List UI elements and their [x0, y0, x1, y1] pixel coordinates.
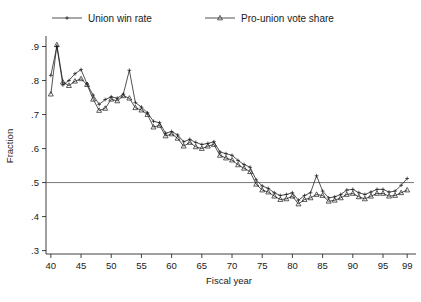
y-tick-label: .5: [31, 177, 39, 188]
chart-container: .3.4.5.6.7.8.940455055606570758085909599…: [0, 0, 421, 302]
x-tick-label: 85: [317, 260, 328, 271]
data-point-marker: [127, 68, 131, 72]
x-tick-label: 80: [287, 260, 298, 271]
y-axis-title: Fraction: [4, 129, 15, 163]
y-tick-label: .8: [31, 75, 39, 86]
x-tick-label: 70: [227, 260, 238, 271]
y-tick-label: .3: [31, 245, 39, 256]
legend-marker-plus: [65, 16, 69, 20]
data-point-marker: [315, 174, 319, 178]
x-tick-label: 65: [197, 260, 208, 271]
series-line: [51, 45, 407, 204]
x-tick-label: 60: [166, 260, 177, 271]
legend-item-1: [52, 16, 82, 20]
x-tick-label: 95: [378, 260, 389, 271]
series-line: [51, 47, 407, 201]
y-tick-label: .7: [31, 109, 39, 120]
x-tick-label: 45: [76, 260, 87, 271]
x-tick-label: 75: [257, 260, 268, 271]
x-tick-label: 40: [46, 260, 57, 271]
legend-label: Union win rate: [88, 13, 152, 24]
x-tick-label: 55: [136, 260, 147, 271]
data-point-marker: [49, 74, 53, 78]
series-2: [48, 42, 409, 206]
y-tick-label: .4: [31, 211, 39, 222]
data-point-marker: [309, 191, 313, 195]
x-tick-label: 99: [402, 260, 413, 271]
y-tick-label: .9: [31, 41, 39, 52]
line-chart: .3.4.5.6.7.8.940455055606570758085909599…: [0, 0, 421, 302]
data-point-marker: [405, 187, 410, 191]
x-tick-label: 90: [348, 260, 359, 271]
legend-item-2: [205, 15, 235, 19]
series-1: [49, 45, 409, 203]
legend-label: Pro-union vote share: [241, 13, 334, 24]
x-axis-title: Fiscal year: [206, 275, 252, 286]
x-tick-label: 50: [106, 260, 117, 271]
y-tick-label: .6: [31, 143, 39, 154]
